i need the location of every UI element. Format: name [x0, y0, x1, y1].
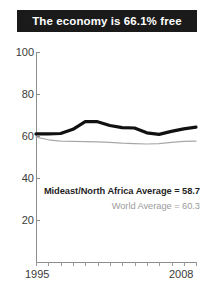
x-tick-mark-1999 — [85, 262, 86, 266]
series-line-mideast — [36, 122, 196, 135]
y-tick-mark-80 — [36, 94, 40, 95]
y-tick-mark-20 — [36, 220, 40, 221]
y-tick-label-60: 60 — [22, 131, 34, 142]
y-tick-mark-60 — [36, 136, 40, 137]
annotation-world-average: World Average = 60.3 — [36, 201, 200, 211]
y-tick-label-20: 20 — [22, 215, 34, 226]
chart-title-banner: The economy is 66.1% free — [17, 10, 197, 32]
x-tick-mark-2005 — [159, 262, 160, 266]
chart-title: The economy is 66.1% free — [32, 15, 182, 27]
x-tick-mark-2004 — [147, 262, 148, 266]
y-tick-mark-100 — [36, 52, 40, 53]
x-tick-mark-1998 — [73, 262, 74, 266]
x-tick-mark-1997 — [61, 262, 62, 266]
x-tick-mark-2008 — [196, 262, 197, 266]
x-axis-label-end: 2008 — [169, 268, 193, 280]
x-axis-label-start: 1995 — [25, 268, 49, 280]
series-line-world — [36, 137, 196, 144]
y-tick-label-100: 100 — [16, 47, 34, 58]
y-axis-line — [36, 52, 37, 263]
x-tick-mark-2002 — [122, 262, 123, 266]
x-tick-mark-1995 — [36, 262, 37, 266]
x-tick-mark-2006 — [172, 262, 173, 266]
y-tick-mark-40 — [36, 178, 40, 179]
x-tick-mark-1996 — [48, 262, 49, 266]
x-tick-mark-2000 — [98, 262, 99, 266]
x-tick-mark-2007 — [184, 262, 185, 266]
annotation-mideast-average: Mideast/North Africa Average = 58.7 — [36, 186, 200, 196]
y-tick-label-40: 40 — [22, 173, 34, 184]
chart-annotations: Mideast/North Africa Average = 58.7 Worl… — [36, 186, 200, 211]
x-tick-mark-2003 — [135, 262, 136, 266]
x-tick-mark-2001 — [110, 262, 111, 266]
economic-freedom-chart: The economy is 66.1% free 100 80 60 40 2… — [0, 0, 214, 306]
y-tick-label-80: 80 — [22, 89, 34, 100]
